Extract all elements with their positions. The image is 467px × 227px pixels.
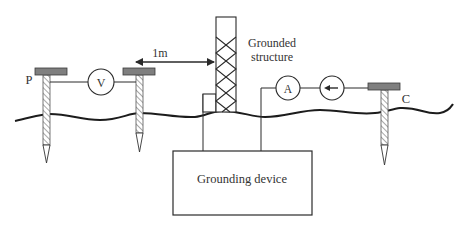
grounded-structure-tower: [203, 17, 236, 112]
current-source: [320, 76, 344, 100]
electrode-potential: [123, 68, 155, 152]
grounding-device-label: Grounding device: [197, 172, 287, 186]
electrode-c-label: C: [402, 92, 410, 106]
electrode-p-label: P: [26, 73, 33, 87]
voltmeter-symbol: V: [97, 76, 106, 90]
grounded-structure-label-line1: Grounded: [248, 36, 296, 50]
ammeter-symbol: A: [284, 83, 293, 95]
grounded-structure-label-line2: structure: [251, 50, 293, 64]
grounding-measurement-diagram: Grounding device Grounded structure 1m P…: [0, 0, 467, 227]
electrode-c: [368, 83, 400, 165]
distance-label: 1m: [152, 46, 168, 60]
